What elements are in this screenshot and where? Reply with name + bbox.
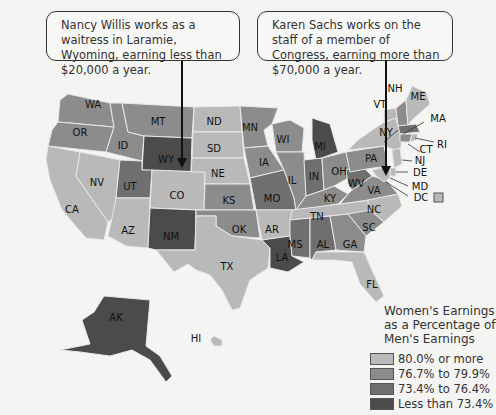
- svg-text:GA: GA: [343, 239, 358, 250]
- state-MS[interactable]: [290, 218, 310, 258]
- svg-text:MO: MO: [264, 193, 281, 204]
- svg-text:WY: WY: [158, 154, 175, 165]
- svg-text:UT: UT: [123, 181, 137, 192]
- svg-text:NV: NV: [90, 177, 104, 188]
- svg-text:KY: KY: [324, 193, 337, 204]
- svg-text:PA: PA: [365, 153, 377, 164]
- svg-text:AR: AR: [265, 224, 279, 235]
- svg-text:NE: NE: [211, 168, 225, 179]
- svg-text:MI: MI: [314, 141, 326, 152]
- svg-text:IN: IN: [309, 171, 319, 182]
- svg-text:FL: FL: [366, 279, 378, 290]
- state-DC[interactable]: [434, 193, 443, 202]
- legend-swatch: [370, 353, 394, 365]
- svg-text:ND: ND: [206, 116, 221, 127]
- legend-label: 80.0% or more: [398, 352, 483, 366]
- svg-text:AK: AK: [109, 312, 123, 323]
- svg-text:TX: TX: [220, 261, 234, 272]
- state-HI[interactable]: [210, 336, 222, 346]
- svg-text:ME: ME: [411, 91, 426, 102]
- svg-text:NJ: NJ: [415, 155, 425, 166]
- legend-item-73-4: 73.4% to 76.4%: [370, 382, 490, 396]
- state-AK[interactable]: [60, 296, 172, 382]
- state-MI[interactable]: [312, 118, 338, 160]
- svg-text:KS: KS: [223, 195, 236, 206]
- svg-text:OK: OK: [232, 224, 247, 235]
- svg-text:SD: SD: [207, 143, 221, 154]
- svg-text:ID: ID: [118, 140, 129, 151]
- legend-swatch: [370, 383, 394, 395]
- svg-text:MD: MD: [412, 181, 429, 192]
- legend-swatch: [370, 398, 394, 410]
- svg-text:NH: NH: [388, 83, 403, 94]
- state-FL[interactable]: [312, 252, 384, 302]
- svg-text:WV: WV: [348, 178, 365, 189]
- svg-text:MA: MA: [430, 113, 446, 124]
- svg-text:HI: HI: [191, 333, 201, 344]
- state-MA[interactable]: [398, 124, 420, 134]
- svg-text:MN: MN: [242, 122, 258, 133]
- legend-swatch: [370, 368, 394, 380]
- svg-text:WA: WA: [85, 99, 101, 110]
- arrowhead-wy: [177, 158, 187, 168]
- svg-text:IA: IA: [259, 157, 269, 168]
- legend-label: Less than 73.4%: [398, 397, 493, 411]
- svg-text:OH: OH: [331, 166, 346, 177]
- svg-text:IL: IL: [288, 175, 297, 186]
- svg-text:AL: AL: [317, 239, 330, 250]
- svg-text:NC: NC: [367, 204, 381, 215]
- state-NJ[interactable]: [392, 148, 402, 168]
- svg-text:AZ: AZ: [121, 225, 135, 236]
- state-NY[interactable]: [348, 118, 402, 152]
- legend-item-76-7: 76.7% to 79.9%: [370, 367, 490, 381]
- callout-arrow-dc: [385, 61, 387, 169]
- svg-text:VA: VA: [367, 185, 380, 196]
- svg-text:LA: LA: [276, 252, 289, 263]
- svg-text:RI: RI: [437, 139, 447, 150]
- svg-text:TN: TN: [309, 211, 324, 222]
- legend-item-80-plus: 80.0% or more: [370, 352, 483, 366]
- svg-text:MT: MT: [151, 116, 167, 127]
- legend-label: 73.4% to 76.4%: [398, 382, 490, 396]
- legend-item-less-73-4: Less than 73.4%: [370, 397, 493, 411]
- svg-text:DC: DC: [414, 192, 429, 203]
- svg-text:NM: NM: [163, 231, 179, 242]
- svg-text:CA: CA: [65, 204, 79, 215]
- svg-text:DE: DE: [413, 167, 427, 178]
- svg-text:CT: CT: [419, 144, 433, 155]
- callout-nancy-willis: Nancy Willis works as a waitress in Lara…: [46, 11, 240, 61]
- svg-text:CO: CO: [170, 190, 185, 201]
- svg-text:SC: SC: [362, 222, 375, 233]
- state-NM[interactable]: [148, 208, 196, 250]
- svg-text:WI: WI: [277, 134, 290, 145]
- svg-text:OR: OR: [73, 127, 88, 138]
- svg-text:MS: MS: [288, 239, 303, 250]
- callout-karen-sachs: Karen Sachs works on the staff of a memb…: [257, 11, 453, 61]
- legend-title: Women's Earnings as a Percentage of Men'…: [384, 304, 496, 346]
- callout-arrow-wy: [181, 61, 183, 161]
- legend-label: 76.7% to 79.9%: [398, 367, 490, 381]
- arrowhead-dc: [381, 166, 391, 176]
- state-AZ[interactable]: [108, 198, 150, 248]
